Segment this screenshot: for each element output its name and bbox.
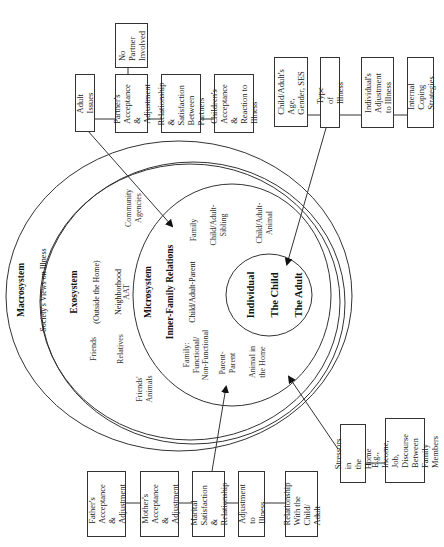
age-gender-text: Child/Adult's Age, Gender, SES <box>276 69 306 114</box>
individual-label: Individual The Child The Adult <box>233 272 305 319</box>
animal-in-home-label: Animal in the Home <box>248 346 267 378</box>
box-relationship-partners: Relationship & Satisfaction Between Part… <box>161 74 201 133</box>
box-adult-issues: Adult Issues <box>75 74 95 132</box>
fathers-text: Father's Acceptance & Adjustment <box>87 484 127 524</box>
stressors-text: Stressors in the Home <box>333 438 373 469</box>
box-adjustment: Adjustment to Illness <box>238 471 265 537</box>
box-marital: Marital Satisfaction & Relationship <box>192 471 225 537</box>
individual-line1: Individual <box>245 272 256 319</box>
partners-acceptance-text: Partner's Acceptance & Adjustment <box>112 84 152 124</box>
adjustment-text: Adjustment to Illness <box>237 484 267 524</box>
box-partners-acceptance: Partner's Acceptance & Adjustment <box>115 74 148 133</box>
microsystem-title: Microsystem <box>143 266 153 318</box>
individual-line2: The Child <box>269 272 280 317</box>
exosystem-title: Exosystem <box>69 270 79 313</box>
community-agencies-label: Community Agencies <box>124 189 143 227</box>
box-internal-coping: Internal Coping Strategies <box>407 57 434 128</box>
marital-text: Marital Satisfaction & Relationship <box>189 483 229 526</box>
box-age-gender: Child/Adult's Age, Gender, SES <box>274 57 308 127</box>
friends-animals-label: Friends' Animals <box>135 375 154 402</box>
box-individuals-adjustment: Individual's Adjustment to Illness <box>361 57 394 128</box>
relatives-label: Relatives <box>116 334 126 364</box>
childrens-acceptance-text: Children's Acceptance & Reaction to Illn… <box>209 84 259 124</box>
macrosystem-label: Macrosystem Society's Views on Illness <box>5 248 49 331</box>
relationship-child-text: Relationship With the Child/ Adult <box>282 483 322 526</box>
box-mothers: Mother's Acceptance & Adjustment <box>140 471 179 537</box>
internal-coping-text: Internal Coping Strategies <box>406 76 436 110</box>
macrosystem-subtitle: Society's Views on Illness <box>39 248 48 331</box>
type-of-illness-text: Type of Illness <box>315 81 345 103</box>
box-type-of-illness: Type of Illness <box>320 57 340 128</box>
microsystem-subtitle: Child/Adult-Parent <box>188 261 197 322</box>
examples-text: E.g., Income, Job, Discourse Between Fam… <box>370 434 440 468</box>
microsystem-label: Microsystem Inner-Family Relations Child… <box>132 245 198 339</box>
no-partner-text: No Partner Involved <box>117 30 147 60</box>
box-childrens-acceptance: Children's Acceptance & Reaction to Illn… <box>214 74 254 133</box>
macrosystem-title: Macrosystem <box>16 263 26 317</box>
box-stressors: Stressors in the Home <box>340 424 366 483</box>
box-no-partner: No Partner Involved <box>115 23 148 68</box>
microsystem-title2: Inner-Family Relations <box>165 245 175 339</box>
individuals-adjustment-text: Individual's Adjustment to Illness <box>363 73 393 113</box>
child-adult-animal-label: Child/Adult- Animal <box>255 203 274 244</box>
arrow-stressors <box>289 377 338 449</box>
arrow-marital <box>212 387 226 471</box>
box-fathers: Father's Acceptance & Adjustment <box>87 471 126 537</box>
family-functional-label: Family: Functional/ Non-Functional <box>182 330 211 381</box>
aat-label: AAT <box>122 284 132 300</box>
child-adult-sibling-label: Child/Adult- Sibling <box>209 205 228 246</box>
individual-line3: The Adult <box>293 272 304 317</box>
relationship-partners-text: Relationship & Satisfaction Between Part… <box>156 82 206 125</box>
mothers-text: Mother's Acceptance & Adjustment <box>140 484 180 524</box>
exosystem-subtitle: (Outside the Home) <box>92 260 101 324</box>
family-label: Family <box>189 219 199 242</box>
adult-issues-text: Adult Issues <box>75 93 95 114</box>
parent-parent-label: Parent- Parent <box>218 351 237 374</box>
box-examples: E.g., Income, Job, Discourse Between Fam… <box>385 418 425 483</box>
friends-label: Friends <box>89 337 99 361</box>
exosystem-label: Exosystem (Outside the Home) Neighborhoo… <box>58 260 124 324</box>
box-relationship-child: Relationship With the Child/ Adult <box>285 471 318 537</box>
